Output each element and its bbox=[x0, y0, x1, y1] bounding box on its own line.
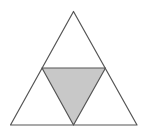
triangle-diagram bbox=[0, 0, 147, 136]
diagram-canvas bbox=[0, 0, 147, 136]
shaded-inner-triangle bbox=[42, 68, 106, 125]
